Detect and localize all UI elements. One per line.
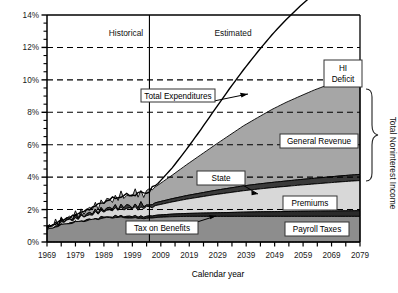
x-tick-label-2079: 2079 <box>351 251 370 260</box>
brace-label: Total Noninterest Income <box>388 117 398 210</box>
payroll-taxes-label: Payroll Taxes <box>293 225 342 234</box>
y-tick-label-10: 10% <box>23 76 39 85</box>
x-tick-label-2049: 2049 <box>266 251 285 260</box>
callout-premiums: Premiums <box>283 196 337 210</box>
y-tick-label-6: 6% <box>27 141 39 150</box>
chart-container: 0%2%4%6%8%10%12%14% 19691979198919992009… <box>0 0 398 293</box>
callout-payroll-taxes: Payroll Taxes <box>285 222 349 236</box>
x-tick-label-2019: 2019 <box>180 251 199 260</box>
callout-general-revenue: General Revenue <box>280 134 358 148</box>
x-tick-label-1999: 1999 <box>123 251 142 260</box>
y-tick-label-14: 14% <box>23 11 39 20</box>
hi-deficit-label-line2: Deficit <box>332 75 355 84</box>
x-tick-label-2029: 2029 <box>209 251 228 260</box>
medicare-cost-area-chart: 0%2%4%6%8%10%12%14% 19691979198919992009… <box>0 0 398 293</box>
state-label: State <box>211 174 231 183</box>
y-tick-label-4: 4% <box>27 173 39 182</box>
x-tick-label-2059: 2059 <box>294 251 313 260</box>
general-revenue-label: General Revenue <box>287 137 352 146</box>
tax-on-benefits-label: Tax on Benefits <box>134 224 190 233</box>
premiums-label: Premiums <box>292 199 329 208</box>
y-tick-label-8: 8% <box>27 108 39 117</box>
x-tick-label-2009: 2009 <box>152 251 171 260</box>
y-tick-label-0: 0% <box>27 238 39 247</box>
y-tick-label-2: 2% <box>27 206 39 215</box>
x-tick-label-1989: 1989 <box>95 251 114 260</box>
x-tick-label-2069: 2069 <box>322 251 341 260</box>
callout-hi-deficit: HI Deficit <box>324 60 362 87</box>
period-label-historical: Historical <box>109 28 144 38</box>
y-tick-label-12: 12% <box>23 43 39 52</box>
x-tick-label-2039: 2039 <box>237 251 256 260</box>
x-axis-title: Calendar year <box>192 269 245 279</box>
period-label-estimated: Estimated <box>214 28 252 38</box>
x-tick-label-1969: 1969 <box>38 251 57 260</box>
x-tick-label-1979: 1979 <box>66 251 85 260</box>
hi-deficit-label-line1: HI <box>339 64 347 73</box>
total-expenditures-label: Total Expenditures <box>144 92 211 101</box>
